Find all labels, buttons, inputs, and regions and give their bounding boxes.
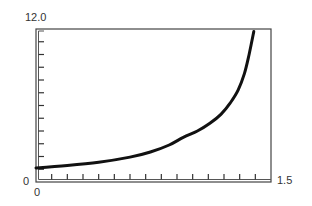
data-curve xyxy=(36,32,254,169)
x-axis-min-label: 0 xyxy=(34,187,40,198)
y-axis-min-label: 0 xyxy=(23,176,29,187)
axes-frame xyxy=(36,29,271,182)
plot-area xyxy=(0,0,312,206)
y-axis-max-label: 12.0 xyxy=(25,12,46,23)
x-axis-max-label: 1.5 xyxy=(277,175,292,186)
